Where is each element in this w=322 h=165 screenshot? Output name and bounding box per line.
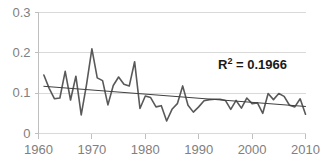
x-axis-label-3: 1990 — [179, 142, 219, 157]
x-axis-label-4: 2000 — [232, 142, 272, 157]
x-axis-label-5: 2010 — [286, 142, 322, 157]
x-tick-marks-group — [39, 134, 306, 139]
r-squared-annotation: R2 = 0.1966 — [218, 57, 287, 72]
r-squared-value: = 0.1966 — [232, 57, 287, 72]
x-axis-label-1: 1970 — [72, 142, 112, 157]
chart-container: 0.30.20.10 196019701980199020002010 R2 =… — [0, 0, 322, 165]
x-axis-label-0: 1960 — [19, 142, 59, 157]
y-axis-label-0: 0.3 — [1, 5, 31, 20]
y-axis-label-1: 0.2 — [1, 45, 31, 60]
r-squared-prefix: R — [218, 57, 227, 72]
chart-plot-area — [0, 0, 322, 165]
y-tick-marks-group — [35, 13, 39, 134]
x-axis-label-2: 1980 — [125, 142, 165, 157]
y-axis-label-2: 0.1 — [1, 85, 31, 100]
y-axis-label-3: 0 — [1, 126, 31, 141]
gridlines-group — [39, 13, 306, 134]
